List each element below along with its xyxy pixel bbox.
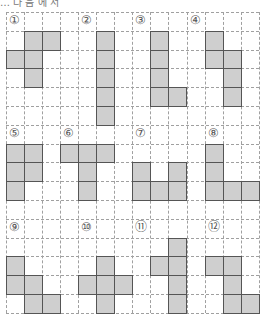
puzzle-label-3: ③ (135, 15, 146, 26)
shaded-cell (168, 275, 187, 295)
puzzle-label-5: ⑤ (9, 128, 20, 139)
shaded-cell (96, 106, 115, 126)
shaded-cell (168, 256, 187, 276)
shaded-cell (78, 162, 97, 182)
grid-line-horizontal (6, 12, 259, 13)
shaded-cell (168, 181, 187, 201)
puzzle-label-9: ⑨ (9, 222, 20, 233)
shaded-cell (150, 181, 169, 201)
shaded-cell (24, 144, 43, 164)
shaded-cell (223, 50, 242, 70)
shaded-cell (205, 181, 224, 201)
grid-line-horizontal (6, 87, 259, 88)
puzzle-label-1: ① (9, 15, 20, 26)
shaded-cell (96, 144, 115, 164)
shaded-cell (60, 144, 79, 164)
shaded-cell (96, 256, 115, 276)
shaded-cell (24, 275, 43, 295)
puzzle-label-6: ⑥ (63, 128, 74, 139)
shaded-cell (150, 256, 169, 276)
grid-line-horizontal (6, 106, 259, 107)
shaded-cell (6, 144, 25, 164)
shaded-cell (6, 162, 25, 182)
shaded-cell (241, 181, 260, 201)
shaded-cell (150, 87, 169, 107)
shaded-cell (42, 294, 61, 314)
shaded-cell (24, 50, 43, 70)
shaded-cell (205, 256, 224, 276)
puzzle-label-2: ② (81, 15, 92, 26)
shaded-cell (168, 87, 187, 107)
grid-line-horizontal (6, 125, 259, 126)
shaded-cell (223, 275, 242, 295)
shaded-cell (24, 31, 43, 51)
shaded-cell (150, 50, 169, 70)
shaded-cell (6, 50, 25, 70)
shaded-cell (168, 238, 187, 258)
shaded-cell (96, 31, 115, 51)
shaded-cell (78, 181, 97, 201)
shaded-cell (96, 68, 115, 88)
shaded-cell (150, 31, 169, 51)
shaded-cell (6, 181, 25, 201)
shaded-cell (96, 294, 115, 314)
grid-line-horizontal (6, 238, 259, 239)
puzzle-label-7: ⑦ (135, 128, 146, 139)
shaded-cell (96, 275, 115, 295)
shaded-cell (223, 181, 242, 201)
shaded-cell (223, 68, 242, 88)
shaded-cell (114, 275, 133, 295)
shaded-cell (241, 294, 260, 314)
puzzle-label-8: ⑧ (208, 128, 219, 139)
grid-line-horizontal (6, 219, 259, 220)
puzzle-label-11: ⑪ (135, 222, 146, 233)
header-text: … 다 음 에 서 (0, 0, 59, 9)
shaded-cell (96, 50, 115, 70)
shaded-cell (96, 87, 115, 107)
shaded-cell (132, 181, 151, 201)
shaded-cell (205, 31, 224, 51)
shaded-cell (223, 256, 242, 276)
puzzle-label-10: ⑩ (81, 222, 92, 233)
shaded-cell (6, 256, 25, 276)
shaded-cell (223, 87, 242, 107)
puzzle-label-4: ④ (190, 15, 201, 26)
shaded-cell (24, 162, 43, 182)
shaded-cell (205, 50, 224, 70)
shaded-cell (223, 294, 242, 314)
shaded-cell (132, 162, 151, 182)
shaded-cell (24, 294, 43, 314)
shaded-cell (150, 68, 169, 88)
shaded-cell (168, 294, 187, 314)
shaded-cell (6, 275, 25, 295)
grid-line-vertical (259, 12, 260, 313)
shaded-cell (42, 31, 61, 51)
shaded-cell (205, 144, 224, 164)
shaded-cell (78, 144, 97, 164)
shaded-cell (168, 162, 187, 182)
shaded-cell (24, 68, 43, 88)
shaded-cell (78, 275, 97, 295)
shaded-cell (205, 162, 224, 182)
puzzle-label-12: ⑫ (208, 222, 219, 233)
